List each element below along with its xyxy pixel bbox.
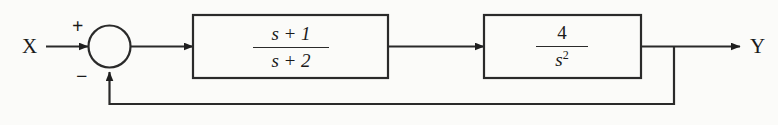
summing-junction-circle (89, 26, 131, 68)
block-1-transfer-function: s + 1 s + 2 (253, 19, 329, 75)
summing-junction-plus-sign: + (72, 16, 83, 36)
block-2-denominator-exponent: 2 (563, 48, 569, 62)
summing-junction-minus-sign: − (76, 66, 87, 86)
block-2-numerator: 4 (554, 22, 570, 44)
output-label-y: Y (750, 36, 765, 57)
input-label-x: X (22, 36, 37, 57)
diagram-canvas (0, 0, 778, 125)
block-2-denominator: s2 (552, 49, 571, 71)
block-1-fraction-bar (253, 47, 329, 48)
block-2-transfer-function: 4 s2 (536, 19, 588, 75)
wire-feedback-path (110, 47, 675, 105)
block-2-fraction-bar (536, 46, 588, 47)
block-2-denominator-base: s (555, 50, 562, 71)
block-1-denominator: s + 2 (268, 50, 313, 72)
block-diagram: X Y + − s + 1 s + 2 4 s2 (0, 0, 778, 125)
block-1-numerator: s + 1 (268, 23, 313, 45)
